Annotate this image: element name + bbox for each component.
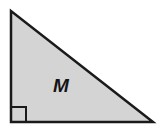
shape-label-M: M bbox=[53, 75, 70, 96]
right-triangle-diagram: M bbox=[0, 0, 164, 130]
figure-canvas: M bbox=[0, 0, 164, 130]
